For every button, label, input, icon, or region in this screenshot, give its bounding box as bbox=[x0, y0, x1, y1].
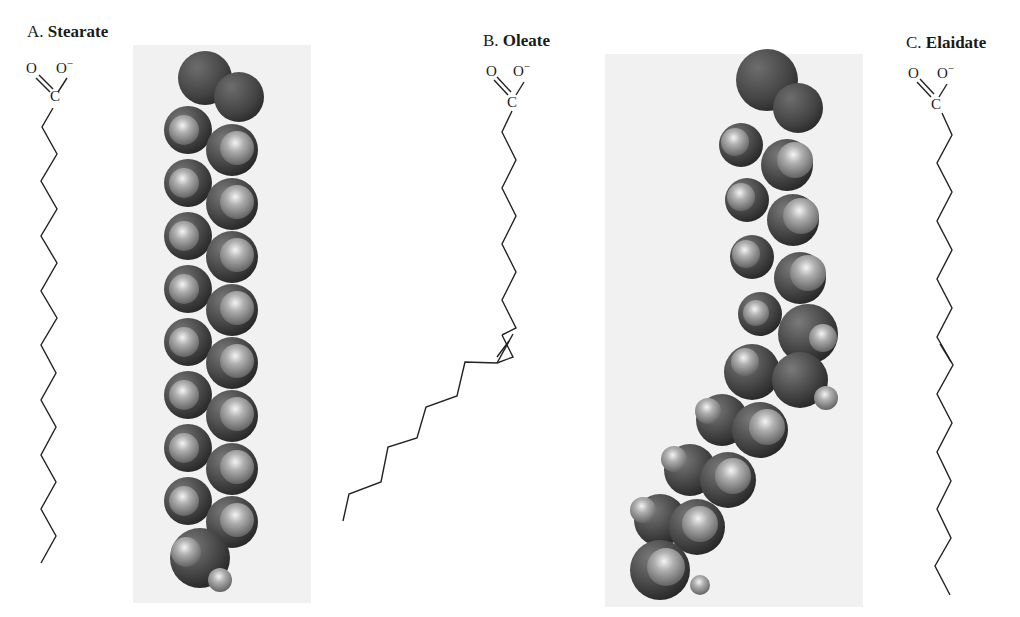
stearate-space-filling-model bbox=[164, 51, 264, 592]
structure-drawings bbox=[0, 0, 1020, 617]
elaidate-skeletal-formula bbox=[917, 79, 953, 595]
stearate-skeletal-formula bbox=[36, 75, 67, 563]
oleate-space-filling-model bbox=[630, 49, 838, 600]
oleate-skeletal-formula bbox=[343, 77, 524, 521]
